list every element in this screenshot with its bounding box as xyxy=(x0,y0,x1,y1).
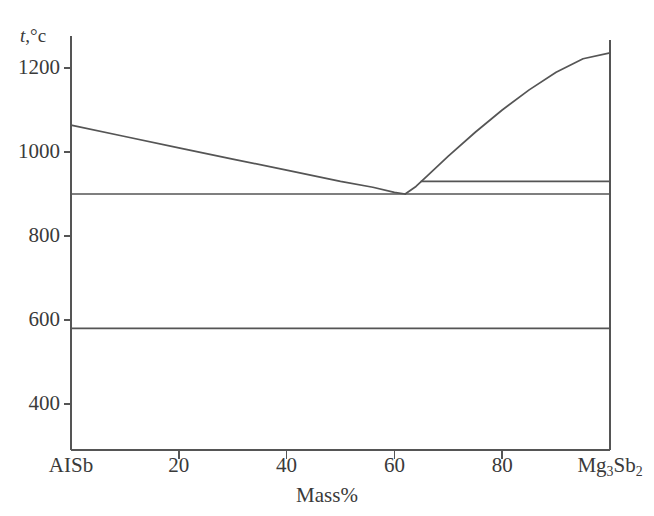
x-tick-label-Mg3Sb2: Mg3Sb2 xyxy=(550,455,654,479)
phase-diagram-figure: t,°c 12001000800600400 AISb20406080Mg3Sb… xyxy=(0,0,654,516)
curves-group xyxy=(71,53,610,329)
x-axis-title: Mass% xyxy=(0,485,654,506)
y-tick-label-400: 400 xyxy=(2,393,60,414)
y-tick-label-1200: 1200 xyxy=(2,57,60,78)
plot-area xyxy=(0,0,654,516)
y-tick-label-1000: 1000 xyxy=(2,141,60,162)
x-tick-label-20: 20 xyxy=(119,455,239,476)
axes-group xyxy=(64,36,610,459)
x-tick-label-AISb: AISb xyxy=(11,455,131,476)
y-tick-label-800: 800 xyxy=(2,225,60,246)
y-axis-title: t,°c xyxy=(20,26,46,45)
x-tick-label-60: 60 xyxy=(334,455,454,476)
curve-liquidus-left xyxy=(71,125,405,194)
y-tick-label-600: 600 xyxy=(2,309,60,330)
y-axis-unit: ,°c xyxy=(25,25,46,46)
x-tick-label-40: 40 xyxy=(227,455,347,476)
curve-liquidus-right xyxy=(405,53,610,194)
x-tick-label-80: 80 xyxy=(442,455,562,476)
x-tick-formula-mg3sb2: Mg3Sb2 xyxy=(577,453,642,477)
